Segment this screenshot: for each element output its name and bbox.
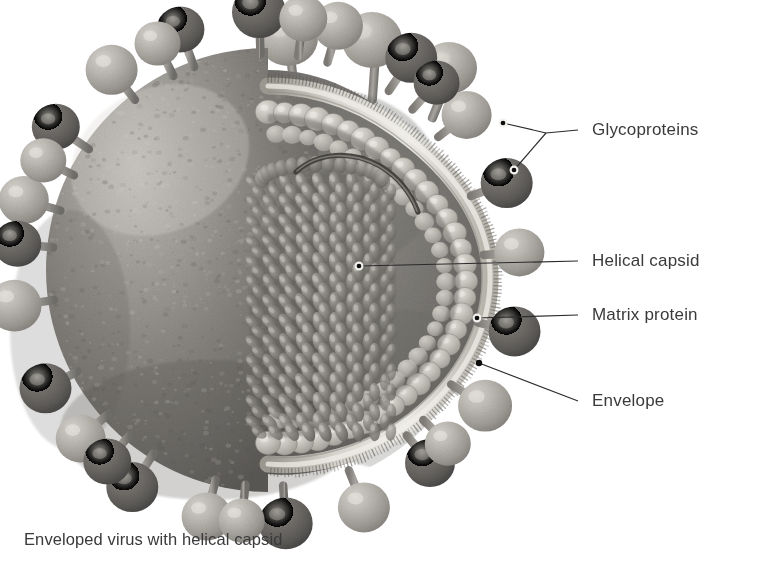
helical-nucleocapsid — [237, 155, 418, 443]
virus-illustration: Glycoproteins Helical capsid Matrix prot… — [0, 0, 758, 577]
figure-caption: Enveloped virus with helical capsid — [24, 530, 282, 548]
virus-diagram-figure: Glycoproteins Helical capsid Matrix prot… — [0, 0, 758, 577]
label-helical-capsid: Helical capsid — [592, 251, 700, 270]
label-envelope: Envelope — [592, 391, 665, 410]
label-matrix-protein: Matrix protein — [592, 305, 698, 324]
label-glycoproteins: Glycoproteins — [592, 120, 699, 139]
